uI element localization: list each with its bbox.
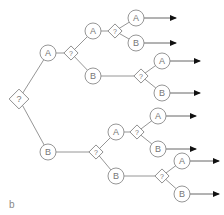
decision-tree-diagram: ? ? ? ? ? ? ? A B A B A [0,0,224,215]
node-label: B [179,189,185,199]
node-label: ? [16,94,21,104]
node-label: B [155,144,161,154]
state-node-a: A [150,108,166,124]
edges [19,18,182,194]
node-label: ? [113,28,117,35]
node-label: B [133,38,139,48]
node-label: ? [69,50,73,57]
state-node-a: A [85,23,101,39]
state-node-b: B [108,168,124,184]
state-node-a: A [174,153,190,169]
node-label: A [90,26,96,36]
node-label: ? [94,149,98,156]
node-label: B [159,88,165,98]
node-label: B [113,171,119,181]
decision-node-root: ? [9,89,29,109]
decision-node: ? [134,69,148,83]
decision-node: ? [130,125,144,139]
state-node-b: B [154,85,170,101]
state-node-b: B [40,144,56,160]
node-label: A [45,48,51,58]
state-node-a: A [40,45,56,61]
state-node-b: B [150,141,166,157]
state-node-a: A [108,124,124,140]
state-node-a: A [154,53,170,69]
node-label: A [113,127,119,137]
panel-label: b [9,199,15,210]
node-label: A [159,56,165,66]
state-node-b: B [85,68,101,84]
state-node-b: B [174,186,190,202]
node-label: ? [139,73,143,80]
node-label: B [90,71,96,81]
node-label: B [45,147,51,157]
node-label: ? [160,173,164,180]
node-label: ? [135,129,139,136]
node-label: A [155,111,161,121]
state-node-b: B [128,35,144,51]
node-label: A [179,156,185,166]
decision-node: ? [108,24,122,38]
node-label: A [133,13,139,23]
state-node-a: A [128,10,144,26]
